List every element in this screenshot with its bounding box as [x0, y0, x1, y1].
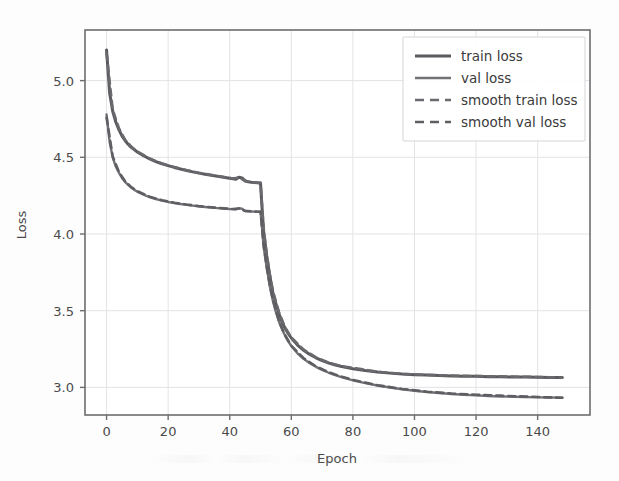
x-tick-label: 100: [402, 424, 427, 439]
x-tick-label: 140: [525, 424, 550, 439]
x-tick-label: 20: [160, 424, 177, 439]
figure-canvas: 020406080100120140 3.03.54.04.55.0 Epoch…: [0, 0, 619, 481]
x-tick-label: 40: [221, 424, 238, 439]
y-tick-label: 4.0: [53, 227, 74, 242]
y-axis-title: Loss: [14, 211, 29, 240]
y-axis-ticks: 3.03.54.04.55.0: [53, 74, 85, 396]
legend-label-smooth-val-loss[interactable]: smooth val loss: [461, 114, 566, 130]
chart-legend[interactable]: train lossval losssmooth train losssmoot…: [403, 37, 585, 141]
legend-label-smooth-train-loss[interactable]: smooth train loss: [461, 92, 578, 108]
x-axis-ticks: 020406080100120140: [102, 415, 550, 439]
legend-label-val-loss[interactable]: val loss: [461, 70, 511, 86]
y-tick-label: 5.0: [53, 74, 74, 89]
x-tick-label: 120: [464, 424, 489, 439]
y-tick-label: 4.5: [53, 150, 74, 165]
x-tick-label: 0: [102, 424, 110, 439]
x-tick-label: 80: [345, 424, 362, 439]
y-tick-label: 3.0: [53, 380, 74, 395]
loss-curve-chart: 020406080100120140 3.03.54.04.55.0 Epoch…: [0, 0, 619, 481]
x-tick-label: 60: [283, 424, 300, 439]
y-tick-label: 3.5: [53, 304, 74, 319]
scan-artifact: [150, 455, 470, 463]
legend-label-train-loss[interactable]: train loss: [461, 48, 523, 64]
